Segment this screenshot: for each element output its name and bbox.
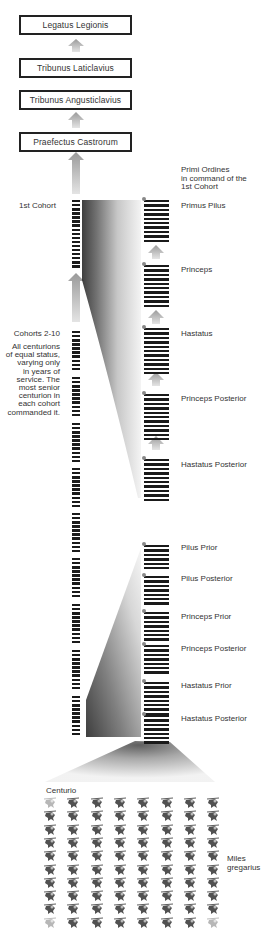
bar bbox=[72, 729, 80, 731]
soldier-figure-icon bbox=[66, 810, 80, 822]
bar bbox=[72, 720, 80, 722]
bar bbox=[144, 667, 169, 669]
bar bbox=[144, 332, 169, 334]
bar bbox=[72, 529, 80, 531]
bar bbox=[144, 420, 169, 422]
soldier-figure-icon bbox=[43, 824, 57, 836]
bar bbox=[144, 708, 169, 710]
bar bbox=[72, 410, 80, 412]
bar bbox=[144, 728, 169, 730]
bar bbox=[72, 439, 80, 441]
bar bbox=[72, 393, 80, 395]
bar bbox=[144, 459, 169, 461]
bar bbox=[72, 427, 80, 429]
bar bbox=[72, 331, 80, 333]
bar bbox=[144, 274, 169, 276]
rank-label-princeps-posterior: Princeps Posterior bbox=[181, 644, 246, 653]
soldier-figure-icon bbox=[183, 903, 197, 915]
soldier-figure-icon bbox=[113, 903, 127, 915]
bar bbox=[72, 212, 80, 214]
soldier-figure-icon bbox=[113, 917, 127, 929]
bar bbox=[72, 591, 80, 593]
bar bbox=[144, 305, 169, 307]
bar bbox=[144, 576, 169, 578]
bar bbox=[72, 460, 80, 462]
bar bbox=[144, 612, 169, 614]
bar bbox=[72, 679, 80, 681]
bar bbox=[72, 570, 80, 572]
soldier-figure-icon bbox=[43, 917, 57, 929]
bar bbox=[144, 598, 169, 600]
cohort-rank-5 bbox=[144, 715, 169, 746]
cohort-8-bars bbox=[72, 604, 80, 645]
bar bbox=[144, 585, 169, 587]
bar bbox=[144, 630, 169, 632]
centurio-figure-icon bbox=[43, 797, 57, 809]
bar bbox=[72, 608, 80, 610]
bar bbox=[144, 363, 169, 365]
bar bbox=[72, 397, 80, 399]
bar bbox=[144, 649, 169, 651]
bar bbox=[72, 472, 80, 474]
bar bbox=[72, 497, 80, 499]
bar bbox=[144, 700, 169, 702]
bar bbox=[144, 328, 169, 330]
bar bbox=[72, 704, 80, 706]
soldier-figure-icon bbox=[183, 877, 197, 889]
bar bbox=[72, 628, 80, 630]
bar bbox=[144, 350, 169, 352]
bar bbox=[72, 389, 80, 391]
bar bbox=[72, 452, 80, 454]
bar bbox=[72, 216, 80, 218]
soldier-figure-icon bbox=[160, 824, 174, 836]
centurion-dot-icon bbox=[142, 609, 146, 613]
soldier-figure-icon bbox=[183, 917, 197, 929]
bar bbox=[72, 708, 80, 710]
bar bbox=[144, 218, 169, 220]
bar bbox=[72, 241, 80, 243]
soldier-figure-icon bbox=[113, 824, 127, 836]
soldier-figure-icon bbox=[183, 890, 197, 902]
soldier-figure-icon bbox=[160, 850, 174, 862]
bar bbox=[72, 368, 80, 370]
soldier-figure-icon bbox=[90, 917, 104, 929]
rank-label-hastatus-posterior: Hastatus Posterior bbox=[181, 714, 247, 723]
soldier-figure-icon bbox=[90, 837, 104, 849]
soldier-figure-icon bbox=[90, 864, 104, 876]
bar bbox=[144, 240, 169, 242]
bar bbox=[72, 712, 80, 714]
bar bbox=[72, 468, 80, 470]
first-cohort-rank-2 bbox=[144, 328, 169, 376]
bar bbox=[72, 650, 80, 652]
cohorts-2-10-label: Cohorts 2-10 bbox=[14, 330, 60, 338]
soldier-figure-icon bbox=[183, 837, 197, 849]
bar bbox=[144, 719, 169, 721]
bar bbox=[72, 492, 80, 494]
bar bbox=[144, 485, 169, 487]
bar bbox=[144, 663, 169, 665]
cohort-rank-4 bbox=[144, 682, 169, 717]
bar bbox=[144, 416, 169, 418]
bar bbox=[144, 558, 169, 560]
bar bbox=[72, 517, 80, 519]
cohort-7-bars bbox=[72, 558, 80, 599]
soldier-figure-icon bbox=[43, 877, 57, 889]
soldier-figure-icon bbox=[43, 864, 57, 876]
bar bbox=[72, 666, 80, 668]
bar bbox=[144, 594, 169, 596]
bar bbox=[144, 407, 169, 409]
cohort-rank-2 bbox=[144, 612, 169, 643]
bar bbox=[72, 456, 80, 458]
soldier-figure-icon bbox=[160, 877, 174, 889]
cohort-5-bars bbox=[72, 468, 80, 509]
cohort-rank-1 bbox=[144, 576, 169, 607]
rank-label-princeps-prior: Princeps Prior bbox=[181, 612, 231, 621]
rank-label-pilus-prior: Pilus Prior bbox=[181, 543, 217, 552]
soldier-figure-icon bbox=[160, 917, 174, 929]
soldier-figure-icon bbox=[160, 864, 174, 876]
soldier-figure-icon bbox=[43, 903, 57, 915]
stipple-fan-century bbox=[45, 741, 215, 782]
centurion-dot-icon bbox=[142, 642, 146, 646]
bar bbox=[72, 725, 80, 727]
bar bbox=[72, 525, 80, 527]
